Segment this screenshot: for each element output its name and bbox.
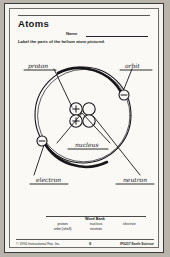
footer-product-code: IF0237 Earth Science: [120, 242, 154, 246]
word-bank-term: [113, 227, 146, 232]
word-bank-term: orbit (shell): [46, 227, 79, 232]
answer-proton[interactable]: proton: [28, 62, 48, 69]
word-bank-row: orbit (shell) neutron: [46, 227, 146, 232]
word-bank-term: neutron: [79, 227, 112, 232]
leader-line-orbit: [124, 69, 132, 89]
answer-electron[interactable]: electron: [36, 176, 61, 183]
footer-copyright: © 1994 Instructional Fair, Inc.: [16, 242, 60, 246]
page-title: Atoms: [18, 18, 49, 29]
answer-neutron[interactable]: neutron: [123, 176, 147, 183]
worksheet-content-frame: Atoms Name Label the parts of the helium…: [9, 8, 159, 248]
atom-svg: [10, 47, 159, 197]
helium-atom-diagram: [10, 47, 159, 197]
footer-page-number: 9: [60, 241, 120, 246]
electron-particle-lower-left: [37, 136, 47, 146]
word-bank-title: Word Bank: [10, 217, 159, 221]
leader-line-electron: [34, 145, 44, 175]
name-field-line[interactable]: [86, 36, 148, 37]
answer-orbit[interactable]: orbit: [125, 62, 140, 69]
worksheet-page: Atoms Name Label the parts of the helium…: [4, 3, 164, 253]
header-rule: [18, 15, 150, 16]
leader-line-neutron: [94, 117, 140, 175]
electron-particle-upper-right: [119, 90, 129, 100]
footer-rule: [16, 239, 154, 240]
word-bank-list: proton nucleus electron orbit (shell) ne…: [46, 222, 146, 233]
answer-nucleus[interactable]: nucleus: [75, 141, 99, 148]
name-field-label: Name: [66, 31, 77, 36]
orbit-arc-top: [58, 68, 122, 94]
instruction-text: Label the parts of the helium atom pictu…: [18, 39, 105, 44]
page-footer: © 1994 Instructional Fair, Inc. 9 IF0237…: [16, 241, 154, 246]
